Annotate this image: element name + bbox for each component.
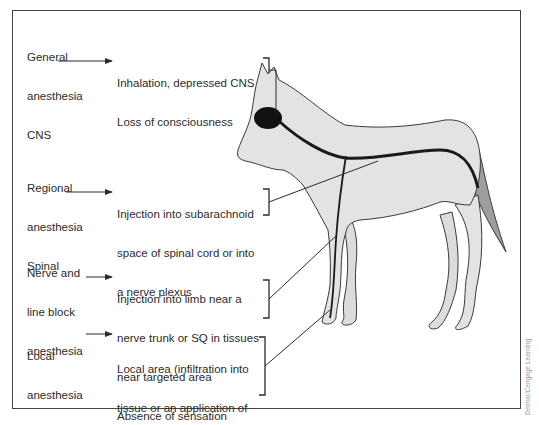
nerve-block-bracket (263, 280, 269, 318)
local-connector (265, 310, 330, 366)
regional-bracket (263, 189, 269, 215)
nerve-block-connector (269, 236, 336, 299)
local-bracket (259, 337, 265, 395)
image-credit: Delmar/Cengage Learning (524, 339, 531, 415)
horse-body (238, 63, 507, 330)
brain-icon (254, 107, 282, 129)
horse-illustration (0, 0, 539, 425)
